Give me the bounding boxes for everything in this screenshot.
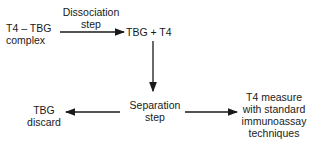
products-node: TBG + T4 bbox=[126, 26, 172, 38]
t4-measure-node: T4 measure with standard immunoassay tec… bbox=[238, 91, 310, 139]
complex-node: T4 – TBG complex bbox=[6, 22, 51, 46]
figure-caption-clipped bbox=[40, 141, 270, 146]
tbg-discard-node: TBG discard bbox=[24, 104, 64, 128]
separation-step-node: Separation step bbox=[122, 99, 188, 123]
dissociation-step-label: Dissociation step bbox=[58, 6, 124, 30]
